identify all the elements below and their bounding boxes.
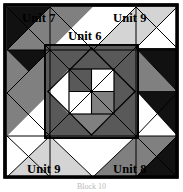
label-unit-6: Unit 6 (68, 30, 102, 43)
figure-caption: Block 10 (0, 182, 183, 192)
label-unit-9-top-right: Unit 9 (113, 12, 147, 25)
label-unit-7: Unit 7 (22, 12, 56, 25)
quilt-block-figure: Unit 7 Unit 9 Unit 6 Unit 9 Unit 8 Block… (0, 0, 183, 192)
label-unit-8: Unit 8 (113, 163, 147, 176)
label-unit-9-bottom-left: Unit 9 (27, 163, 61, 176)
